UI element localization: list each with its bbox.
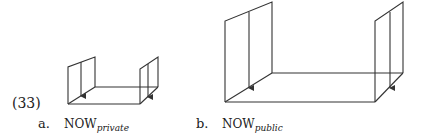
figure-a-marker: a. bbox=[38, 117, 50, 130]
caption-subscript: private bbox=[97, 123, 129, 133]
figure-b-marker: b. bbox=[196, 117, 208, 130]
floor-plane bbox=[225, 73, 403, 102]
diagram-canvas bbox=[0, 0, 423, 136]
left-panel bbox=[68, 57, 95, 104]
figure-b-caption: NOWpublic bbox=[222, 117, 283, 130]
figure-a-now-private bbox=[68, 57, 158, 104]
example-number: (33) bbox=[12, 96, 41, 110]
caption-main: NOW bbox=[64, 117, 97, 131]
figure-a-caption: NOWprivate bbox=[64, 117, 129, 130]
caption-main: NOW bbox=[222, 117, 255, 131]
figure-b-now-public bbox=[225, 2, 403, 102]
caption-subscript: public bbox=[255, 123, 283, 133]
right-panel bbox=[140, 57, 158, 104]
